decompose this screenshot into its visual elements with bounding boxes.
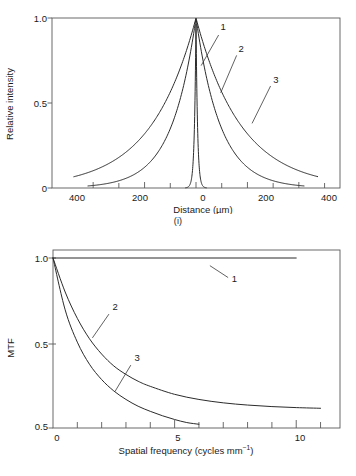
y-tick-label-i-1: 1.0 [34, 13, 47, 24]
mtf-curve-2-line [53, 258, 321, 408]
mtf-curve-1-label: 1 [232, 273, 237, 284]
x-tick-label-i-200: 200 [258, 192, 274, 203]
mtf-curve-1-leader-line [210, 266, 228, 278]
figure-container: Relative intensity 1.0 0.5 0 400 200 0 2… [0, 0, 356, 476]
curve-1-leader-line [201, 35, 218, 66]
curve-1-line [186, 24, 207, 188]
x-ticks-i [93, 182, 324, 188]
x-tick-label-ii-10: 10 [295, 432, 306, 443]
mtf-curve-3-line [53, 258, 199, 424]
plot-frame-ii [53, 250, 340, 428]
y-tick-label-i-0: 0 [42, 183, 47, 194]
x-tick-labels-ii: 0 5 10 [54, 432, 305, 443]
x-tick-label-ii-5: 5 [175, 432, 180, 443]
panel-caption-i: (i) [0, 216, 356, 226]
curve-2-leader-line [221, 55, 237, 92]
curve-3-label: 3 [273, 74, 278, 85]
y-tick-label-ii-top: 1.0 [35, 253, 48, 264]
curves-ii [53, 258, 321, 424]
curve-2-label: 2 [238, 43, 243, 54]
x-tick-label-i-m200: 200 [132, 192, 148, 203]
y-tick-label-i-0_5: 0.5 [34, 98, 47, 109]
x-tick-label-ii-0: 0 [54, 432, 59, 443]
x-tick-labels-i: 400 200 0 200 400 [69, 192, 337, 203]
mtf-curve-3-label: 3 [134, 352, 139, 363]
y-ticks-ii [49, 258, 57, 428]
curve-3-leader-line [252, 86, 271, 123]
x-axis-title-ii: Spatial frequency (cycles mm−1) [119, 444, 254, 456]
curves-i [74, 18, 318, 188]
curve-annotations-ii: 1 2 3 [92, 266, 237, 392]
mtf-chart: MTF 1.0 0.5 0.5 0 5 10 Spa [0, 238, 356, 458]
x-axis-title-ii-suffix: ) [250, 445, 253, 456]
x-axis-title-ii-main: Spatial frequency (cycles mm [119, 445, 243, 456]
curve-1-label: 1 [220, 21, 225, 32]
mtf-curve-2-leader-line [92, 314, 109, 338]
x-axis-title-i: Distance (µm) [173, 204, 232, 214]
y-ticks-i [48, 18, 53, 188]
x-tick-label-i-400: 400 [321, 192, 337, 203]
y-tick-label-ii-mid: 0.5 [35, 339, 48, 350]
x-tick-label-i-0: 0 [200, 192, 205, 203]
y-axis-title-i: Relative intensity [4, 68, 15, 140]
panel-ii-mtf-chart: MTF 1.0 0.5 0.5 0 5 10 Spa [0, 238, 356, 476]
mtf-curve-2-label: 2 [113, 301, 118, 312]
x-tick-label-i-m400: 400 [69, 192, 85, 203]
y-tick-label-ii-bottom: 0.5 [35, 421, 48, 432]
intensity-profile-chart: Relative intensity 1.0 0.5 0 400 200 0 2… [0, 0, 356, 214]
panel-i-intensity-profile: Relative intensity 1.0 0.5 0 400 200 0 2… [0, 0, 356, 238]
y-axis-title-ii: MTF [5, 338, 16, 358]
